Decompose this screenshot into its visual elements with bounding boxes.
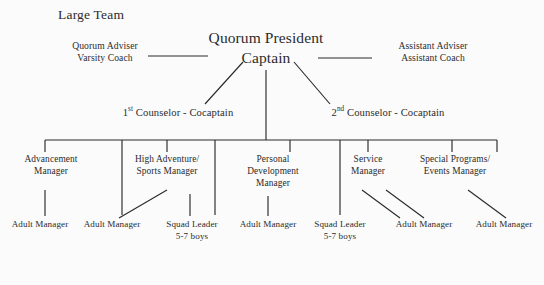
second-counselor-label: 2nd Counselor - Cocaptain [332,106,445,120]
leaf-7-line-1: Adult Manager [476,219,533,231]
node-quorum-president[interactable]: Quorum President Captain [209,28,324,68]
node-adult-manager-5[interactable]: Adult Manager [476,219,533,231]
node-adult-manager-1[interactable]: Adult Manager [12,219,69,231]
node-quorum-adviser[interactable]: Quorum Adviser Varsity Coach [72,40,138,65]
second-counselor-suffix: nd [337,105,344,113]
manager-1-line-2: Manager [24,165,77,177]
manager-2-line-2: Sports Manager [135,165,199,177]
connector-manager5-leaf7 [468,190,506,218]
right-adviser-line-2: Assistant Coach [398,52,467,64]
leaf-2-line-1: Adult Manager [84,219,141,231]
node-assistant-adviser[interactable]: Assistant Adviser Assistant Coach [398,40,467,65]
node-adult-manager-2[interactable]: Adult Manager [84,219,141,231]
leaf-5-line-2: 5-7 boys [314,231,365,243]
left-adviser-line-2: Varsity Coach [72,52,138,64]
node-advancement-manager[interactable]: Advancement Manager [24,153,77,177]
manager-3-line-1: Personal [247,153,299,165]
left-adviser-line-1: Quorum Adviser [72,40,138,52]
leaf-3-line-1: Squad Leader [166,219,217,231]
leaf-6-line-1: Adult Manager [396,219,453,231]
first-counselor-rest: Counselor - Cocaptain [133,107,233,118]
connector-manager5-leaf6 [386,190,424,218]
node-personal-development-manager[interactable]: Personal Development Manager [247,153,299,189]
root-line-1: Quorum President [209,28,324,48]
connector-manager2-leaf2 [119,190,167,218]
node-high-adventure-sports-manager[interactable]: High Adventure/ Sports Manager [135,153,199,177]
leaf-5-line-1: Squad Leader [314,219,365,231]
manager-3-line-2: Development [247,165,299,177]
manager-1-line-1: Advancement [24,153,77,165]
node-service-manager[interactable]: Service Manager [351,153,385,177]
node-adult-manager-4[interactable]: Adult Manager [396,219,453,231]
manager-3-line-3: Manager [247,177,299,189]
leaf-3-line-2: 5-7 boys [166,231,217,243]
leaf-4-line-1: Adult Manager [240,219,297,231]
node-special-programs-events-manager[interactable]: Special Programs/ Events Manager [420,153,490,177]
root-line-2: Captain [209,48,324,68]
manager-5-line-2: Events Manager [420,165,490,177]
connector-root-to-counselor-2 [294,62,330,104]
leaf-1-line-1: Adult Manager [12,219,69,231]
node-squad-leader-1[interactable]: Squad Leader 5-7 boys [166,219,217,242]
right-adviser-line-1: Assistant Adviser [398,40,467,52]
manager-4-line-1: Service [351,153,385,165]
manager-5-line-1: Special Programs/ [420,153,490,165]
connector-root-to-counselor-1 [205,62,243,104]
manager-2-line-1: High Adventure/ [135,153,199,165]
first-counselor-label: 1st Counselor - Cocaptain [123,106,234,120]
second-counselor-rest: Counselor - Cocaptain [344,107,444,118]
manager-4-line-2: Manager [351,165,385,177]
node-squad-leader-2[interactable]: Squad Leader 5-7 boys [314,219,365,242]
node-first-counselor[interactable]: 1st Counselor - Cocaptain [123,106,234,120]
connector-manager4-leaf5 [362,190,400,218]
org-chart: Large Team Quorum President Captain Quor… [0,0,544,285]
node-second-counselor[interactable]: 2nd Counselor - Cocaptain [332,106,445,120]
page-title: Large Team [58,7,124,23]
node-adult-manager-3[interactable]: Adult Manager [240,219,297,231]
